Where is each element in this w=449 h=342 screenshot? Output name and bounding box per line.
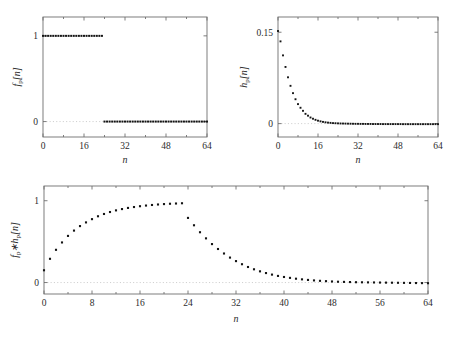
data-point — [397, 282, 399, 284]
data-point — [98, 35, 100, 37]
data-point — [349, 281, 351, 283]
data-point — [307, 115, 309, 117]
data-point — [124, 121, 126, 123]
data-point — [302, 110, 304, 112]
data-point — [427, 123, 429, 125]
data-point — [427, 282, 429, 284]
data-point — [375, 123, 377, 125]
axes-frame — [43, 17, 207, 137]
data-point — [317, 120, 319, 122]
x-tick-label: 40 — [279, 298, 289, 308]
data-point — [163, 203, 165, 205]
data-point — [340, 123, 342, 125]
data-point — [193, 121, 195, 123]
data-point — [121, 121, 123, 123]
data-point — [415, 123, 417, 125]
data-point — [93, 35, 95, 37]
x-tick-label: 16 — [313, 141, 323, 151]
data-point — [139, 121, 141, 123]
data-point — [115, 209, 117, 211]
data-point — [410, 123, 412, 125]
data-point — [285, 66, 287, 68]
data-point — [175, 202, 177, 204]
data-point — [372, 123, 374, 125]
data-point — [187, 217, 189, 219]
data-point — [181, 202, 183, 204]
data-point — [180, 121, 182, 123]
data-point — [201, 121, 203, 123]
data-point — [70, 35, 72, 37]
data-point — [265, 272, 267, 274]
data-point — [312, 118, 314, 120]
data-point — [157, 203, 159, 205]
data-point — [198, 121, 200, 123]
fp-x-axis-title: n — [123, 154, 128, 165]
data-point — [301, 278, 303, 280]
data-point — [420, 123, 422, 125]
data-point — [206, 121, 208, 123]
data-point — [175, 121, 177, 123]
data-point — [49, 258, 51, 260]
fp-ytick-label-1: 1 — [33, 31, 38, 41]
data-point — [191, 121, 193, 123]
data-point — [335, 122, 337, 124]
x-tick-label: 56 — [375, 298, 385, 308]
data-point — [387, 123, 389, 125]
data-point — [283, 276, 285, 278]
data-point — [357, 123, 359, 125]
data-point — [151, 204, 153, 206]
data-point — [127, 121, 129, 123]
data-point — [150, 121, 152, 123]
data-point — [165, 121, 167, 123]
data-point — [157, 121, 159, 123]
data-point — [432, 123, 434, 125]
data-point — [65, 35, 67, 37]
data-point — [133, 206, 135, 208]
data-point — [355, 123, 357, 125]
data-point — [79, 225, 81, 227]
data-point — [277, 30, 279, 32]
data-point — [289, 277, 291, 279]
data-point — [345, 123, 347, 125]
data-point — [295, 278, 297, 280]
data-point — [350, 123, 352, 125]
x-tick-label: 64 — [433, 141, 443, 151]
data-point — [170, 121, 172, 123]
data-point — [331, 280, 333, 282]
data-point — [119, 121, 121, 123]
data-point — [55, 249, 57, 251]
panel-hp-svg: 0.15 0 hp[n] 016324864 n — [225, 0, 449, 172]
data-point — [313, 279, 315, 281]
data-point — [188, 121, 190, 123]
data-point — [437, 123, 439, 125]
data-point — [134, 121, 136, 123]
data-point — [379, 282, 381, 284]
data-point — [186, 121, 188, 123]
data-point — [385, 282, 387, 284]
x-tick-label: 48 — [393, 141, 403, 151]
fp-ytick-label-0: 0 — [33, 117, 38, 127]
x-tick-label: 24 — [183, 298, 193, 308]
data-point — [360, 123, 362, 125]
data-point — [73, 35, 75, 37]
data-point — [277, 275, 279, 277]
x-tick-label: 0 — [276, 141, 281, 151]
data-point — [259, 270, 261, 272]
data-point — [347, 123, 349, 125]
data-point — [60, 35, 62, 37]
data-point — [109, 121, 111, 123]
data-point — [45, 35, 47, 37]
conv-ytick-label-1: 1 — [34, 196, 39, 206]
data-point — [86, 35, 88, 37]
panel-hp: 0.15 0 hp[n] 016324864 n — [225, 0, 449, 172]
data-point — [88, 35, 90, 37]
hp-yaxis-labels: 0.15 0 — [256, 28, 273, 129]
panel-conv-svg: 1 0 fp∗hp[n] 0816243240485664 n — [0, 172, 449, 342]
data-point — [168, 121, 170, 123]
data-point — [409, 282, 411, 284]
data-point — [129, 121, 131, 123]
data-point — [229, 257, 231, 259]
data-point — [315, 119, 317, 121]
data-point — [121, 208, 123, 210]
data-point — [55, 35, 57, 37]
